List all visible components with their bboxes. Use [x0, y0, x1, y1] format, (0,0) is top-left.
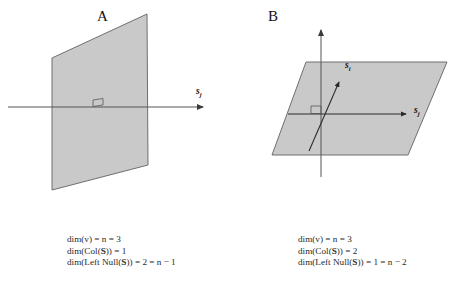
panel-b-axis-label-sj: sj: [414, 105, 420, 117]
panel-a-caption-line1: dim(v) = n = 3: [67, 234, 176, 246]
panel-b-caption-line1: dim(v) = n = 3: [298, 234, 407, 246]
panel-a-caption-line3: dim(Left Null(S)) = 2 = n − 1: [67, 257, 176, 269]
panel-a-caption-line2: dim(Col(S)) = 1: [67, 246, 176, 258]
panel-b-caption: dim(v) = n = 3 dim(Col(S)) = 2 dim(Left …: [298, 234, 407, 269]
panel-a-letter: A: [97, 8, 108, 25]
panel-b-axis-label-si-sub: i: [349, 65, 351, 72]
panel-a-graphic: [8, 14, 203, 190]
panel-a-axis-label-sj: sj: [196, 86, 202, 98]
panel-b-caption-line2-suffix: )) = 2: [337, 246, 358, 256]
panel-a-axis-label-sj-sub: j: [200, 91, 202, 98]
panel-b-plane: [272, 62, 447, 155]
panel-b-caption-line3-suffix: )) = 1 = n − 2: [357, 257, 406, 267]
panel-a-caption-line3-prefix: dim(Left Null(: [67, 257, 121, 267]
panel-a-caption: dim(v) = n = 3 dim(Col(S)) = 1 dim(Left …: [67, 234, 176, 269]
panel-a-caption-line2-suffix: )) = 1: [106, 246, 127, 256]
panel-b-graphic: [272, 30, 447, 177]
panel-b-caption-line3-prefix: dim(Left Null(: [298, 257, 352, 267]
panel-b-letter: B: [268, 8, 278, 25]
panel-b-caption-line3: dim(Left Null(S)) = 1 = n − 2: [298, 257, 407, 269]
panel-a-plane: [52, 14, 148, 190]
panel-b-caption-line2: dim(Col(S)) = 2: [298, 246, 407, 258]
panel-b-axis-label-si: si: [345, 60, 351, 72]
panel-b-axis-label-sj-sub: j: [418, 110, 420, 117]
panel-b-caption-line2-prefix: dim(Col(: [298, 246, 332, 256]
panel-a-caption-line3-suffix: )) = 2 = n − 1: [126, 257, 175, 267]
panel-a-caption-line2-prefix: dim(Col(: [67, 246, 101, 256]
